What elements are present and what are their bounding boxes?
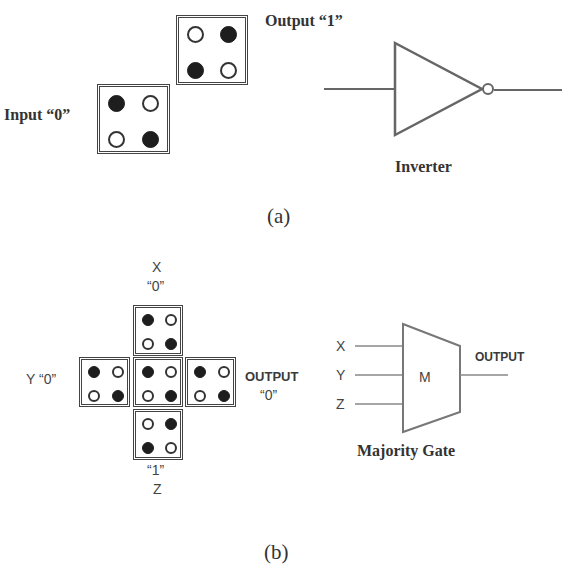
gate-input-y: Y xyxy=(336,367,345,383)
majority-gate-label: Majority Gate xyxy=(357,442,455,460)
gate-symbol-m: M xyxy=(419,369,431,385)
gate-input-z: Z xyxy=(336,396,345,412)
gate-output-label: OUTPUT xyxy=(475,350,524,364)
majority-gate-symbol xyxy=(0,0,563,577)
caption-b: (b) xyxy=(264,540,289,565)
gate-input-x: X xyxy=(336,338,345,354)
